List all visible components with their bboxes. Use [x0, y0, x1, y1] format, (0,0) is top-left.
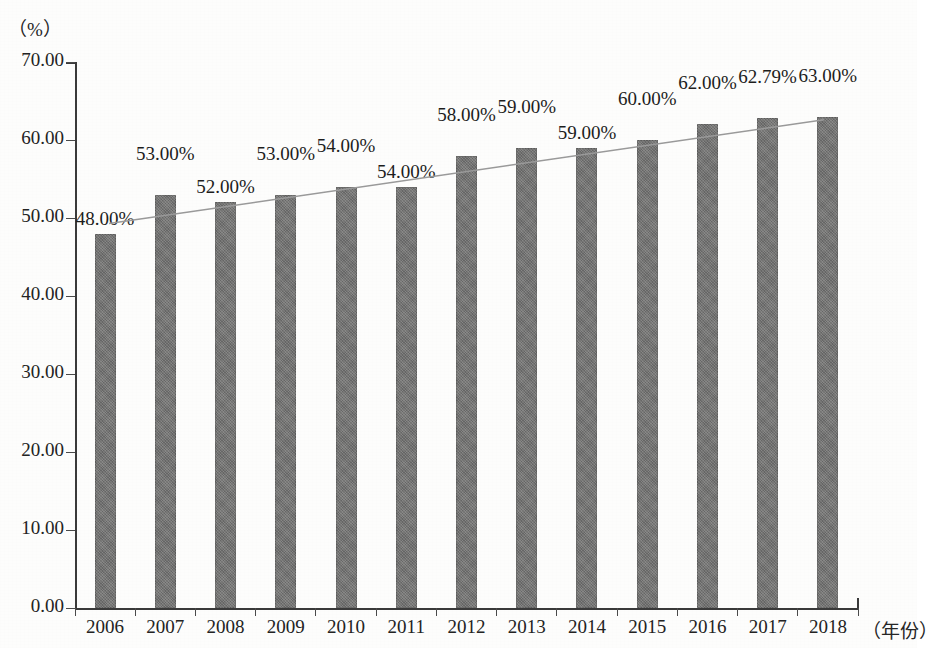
x-tick-mark [797, 608, 798, 616]
bar-data-label: 54.00% [366, 161, 446, 183]
y-tick-label: 20.00 [2, 439, 64, 461]
x-tick-label: 2017 [738, 616, 798, 638]
bar [396, 187, 417, 608]
x-tick-mark [737, 608, 738, 616]
y-axis-line [75, 62, 77, 609]
x-tick-label: 2012 [437, 616, 497, 638]
x-tick-mark [75, 608, 76, 616]
x-tick-label: 2007 [135, 616, 195, 638]
x-tick-label: 2008 [196, 616, 256, 638]
x-tick-label: 2006 [75, 616, 135, 638]
x-axis-title: （年份） [862, 616, 930, 643]
y-tick-label: 10.00 [2, 517, 64, 539]
y-tick-mark [66, 452, 75, 453]
bar [215, 202, 236, 608]
bar [576, 148, 597, 608]
x-tick-label: 2015 [617, 616, 677, 638]
x-tick-label: 2014 [557, 616, 617, 638]
bar-data-label: 52.00% [186, 176, 266, 198]
x-tick-mark [195, 608, 196, 616]
bar [817, 117, 838, 608]
y-tick-mark [66, 530, 75, 531]
x-tick-label: 2009 [256, 616, 316, 638]
y-axis-title: （%） [8, 14, 62, 41]
x-tick-mark [135, 608, 136, 616]
y-tick-label: 30.00 [2, 361, 64, 383]
x-tick-label: 2010 [316, 616, 376, 638]
x-tick-mark [255, 608, 256, 616]
y-tick-label: 60.00 [2, 127, 64, 149]
x-tick-label: 2013 [497, 616, 557, 638]
y-tick-mark [66, 374, 75, 375]
bar [456, 156, 477, 608]
bar [95, 234, 116, 608]
y-tick-label: 40.00 [2, 283, 64, 305]
bar-data-label: 48.00% [65, 208, 145, 230]
bar-data-label: 59.00% [487, 96, 567, 118]
bar [336, 187, 357, 608]
x-tick-label: 2016 [677, 616, 737, 638]
y-tick-label: 0.00 [2, 595, 64, 617]
bar-data-label: 59.00% [547, 122, 627, 144]
x-tick-label: 2018 [798, 616, 858, 638]
bar-data-label: 63.00% [788, 65, 868, 87]
x-tick-mark [556, 608, 557, 616]
bar [275, 195, 296, 608]
x-tick-label: 2011 [376, 616, 436, 638]
y-tick-mark [66, 62, 75, 63]
bar [637, 140, 658, 608]
x-tick-mark [677, 608, 678, 616]
x-tick-mark [858, 608, 859, 616]
y-tick-label: 50.00 [2, 205, 64, 227]
x-tick-mark [436, 608, 437, 616]
bar-data-label: 54.00% [306, 135, 386, 157]
x-tick-mark [496, 608, 497, 616]
x-axis-line [75, 608, 859, 610]
bar-data-label: 53.00% [125, 143, 205, 165]
bar [155, 195, 176, 608]
y-tick-label: 70.00 [2, 49, 64, 71]
y-tick-mark [66, 140, 75, 141]
bar [516, 148, 537, 608]
bar [697, 124, 718, 608]
x-tick-mark [376, 608, 377, 616]
bar [757, 118, 778, 608]
x-tick-mark [617, 608, 618, 616]
x-tick-mark [315, 608, 316, 616]
y-tick-mark [66, 296, 75, 297]
